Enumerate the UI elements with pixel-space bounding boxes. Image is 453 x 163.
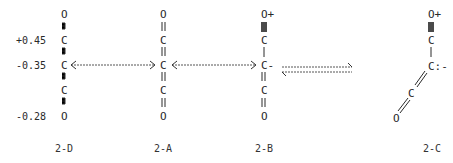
atom-c3: C bbox=[61, 84, 68, 97]
atom-c1: C bbox=[61, 34, 68, 47]
charge-label-plus045: +0.45 bbox=[16, 35, 46, 46]
caption-2a: 2-A bbox=[154, 143, 172, 154]
atom-c2: C bbox=[160, 59, 167, 72]
caption-2d: 2-D bbox=[55, 143, 73, 154]
atom-o-bottom: O bbox=[393, 112, 400, 125]
atom-o-top: O bbox=[61, 8, 68, 21]
atom-c1: C bbox=[261, 34, 268, 47]
structure-2a: O C C C O 2-A bbox=[154, 8, 172, 154]
atom-c1: C bbox=[160, 34, 167, 47]
atom-o-bottom: O bbox=[61, 110, 68, 123]
charge-label-minus028: -0.28 bbox=[16, 111, 46, 122]
atom-c3: C bbox=[408, 87, 415, 100]
atom-o-bottom: O bbox=[261, 110, 268, 123]
charge-label-minus035: -0.35 bbox=[16, 60, 46, 71]
caption-2b: 2-B bbox=[255, 143, 273, 154]
caption-2c: 2-C bbox=[423, 143, 441, 154]
atom-o-top: O bbox=[160, 8, 167, 21]
structure-2c: O+ C C:- C O 2-C bbox=[393, 8, 448, 154]
atom-c2: C bbox=[61, 59, 68, 72]
atom-c1: C bbox=[428, 34, 435, 47]
structure-2d: O C C C O 2-D bbox=[55, 8, 73, 154]
structure-2b: O+ C C- C O 2-B bbox=[255, 8, 275, 154]
atom-c3: C bbox=[261, 84, 268, 97]
atom-o-plus: O+ bbox=[428, 8, 442, 21]
resonance-diagram: +0.45 -0.35 -0.28 O C C C O 2-D O C C C … bbox=[0, 0, 453, 163]
equilibrium-arrows bbox=[282, 63, 352, 76]
atom-c3: C bbox=[160, 84, 167, 97]
atom-c2-anion: C- bbox=[261, 59, 274, 72]
resonance-arrow-d-a bbox=[71, 61, 155, 69]
resonance-arrow-a-b bbox=[172, 61, 256, 69]
atom-o-bottom: O bbox=[160, 110, 167, 123]
atom-c2-carbene-anion: C:- bbox=[428, 60, 448, 73]
atom-o-plus: O+ bbox=[261, 8, 275, 21]
